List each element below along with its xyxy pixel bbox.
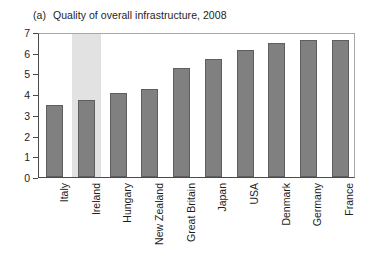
bar-denmark: [268, 43, 285, 177]
y-tick-label: 1: [8, 152, 30, 163]
y-tick-label: 2: [8, 132, 30, 143]
y-tick-label: 7: [8, 28, 30, 39]
x-tick-label-italy: Italy: [59, 183, 70, 202]
chart-title: (a)Quality of overall infrastructure, 20…: [33, 9, 227, 22]
x-tick-label-hungary: Hungary: [122, 183, 133, 223]
y-tick-label: 5: [8, 69, 30, 80]
x-tick-label-denmark: Denmark: [281, 183, 292, 226]
x-tick-label-usa: USA: [249, 183, 260, 205]
bar-usa: [237, 50, 254, 177]
bar-new-zealand: [141, 89, 158, 177]
x-tick-label-great-britain: Great Britain: [186, 183, 197, 242]
bar-italy: [46, 105, 63, 178]
bar-hungary: [110, 93, 127, 177]
chart-figure: (a)Quality of overall infrastructure, 20…: [0, 0, 371, 264]
bar-ireland: [78, 100, 95, 177]
x-tick-label-japan: Japan: [217, 183, 228, 212]
x-tick-label-ireland: Ireland: [91, 183, 102, 215]
x-tick-label-new-zealand: New Zealand: [154, 183, 165, 245]
bar-germany: [300, 40, 317, 177]
y-tick-label: 0: [8, 173, 30, 184]
y-tick-label: 3: [8, 111, 30, 122]
y-tick-label: 4: [8, 90, 30, 101]
y-tick-mark: [33, 178, 38, 179]
bar-france: [332, 40, 349, 177]
bar-great-britain: [173, 68, 190, 177]
bar-japan: [205, 59, 222, 177]
y-tick-label: 6: [8, 49, 30, 60]
panel-label: (a): [33, 9, 46, 21]
plot-area: [38, 33, 355, 178]
chart-title-text: Quality of overall infrastructure, 2008: [53, 9, 227, 21]
x-tick-label-germany: Germany: [312, 183, 323, 226]
x-tick-label-france: France: [344, 183, 355, 216]
